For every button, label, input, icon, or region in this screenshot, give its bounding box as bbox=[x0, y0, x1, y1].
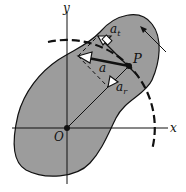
x-axis-label: x bbox=[170, 121, 177, 135]
point-p bbox=[126, 63, 132, 69]
rigid-body bbox=[14, 15, 159, 176]
origin-point bbox=[64, 125, 70, 131]
y-axis-label: y bbox=[62, 1, 70, 15]
point-p-label: P bbox=[132, 51, 142, 66]
acceleration-label: a bbox=[99, 61, 106, 75]
diagram-canvas: y x O P a at ar bbox=[0, 0, 186, 192]
origin-label: O bbox=[54, 130, 64, 144]
